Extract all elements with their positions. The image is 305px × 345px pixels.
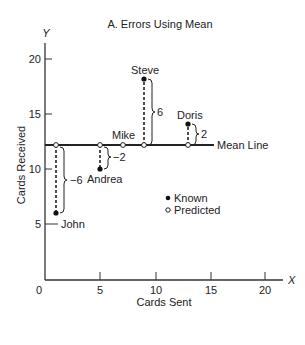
- x-tick-10: 10: [150, 284, 162, 296]
- y-axis-label: Cards Received: [15, 126, 27, 204]
- doris-predicted-point: [186, 143, 191, 148]
- doris-error-label: 2: [201, 128, 207, 140]
- john-label: John: [61, 218, 85, 230]
- mike-label: Mike: [112, 129, 135, 141]
- x-tick-20: 20: [259, 284, 271, 296]
- x-axis-label: Cards Sent: [136, 296, 191, 308]
- legend-known-icon: [166, 196, 171, 201]
- legend-known-label: Known: [174, 192, 208, 204]
- andrea-error-label: −2: [113, 151, 126, 163]
- steve-predicted-point: [142, 143, 147, 148]
- mike-predicted-point: [121, 143, 126, 148]
- x-axis-symbol: X: [287, 274, 296, 286]
- y-tick-20: 20: [29, 53, 41, 65]
- y-ticks: 20 15 10 5: [29, 53, 52, 230]
- x-tick-0: 0: [36, 284, 42, 296]
- chart-canvas: A. Errors Using Mean Y X 20 15 10 5 0 5 …: [0, 0, 305, 345]
- andrea-label: Andrea: [87, 173, 123, 185]
- x-tick-5: 5: [97, 284, 103, 296]
- x-tick-15: 15: [205, 284, 217, 296]
- x-ticks: 0 5 10 15 20: [36, 272, 271, 296]
- y-tick-10: 10: [29, 163, 41, 175]
- steve-known-point: [141, 76, 146, 81]
- legend-predicted-icon: [166, 208, 170, 212]
- john-predicted-point: [54, 143, 59, 148]
- chart-title: A. Errors Using Mean: [107, 18, 212, 30]
- doris-known-point: [185, 121, 190, 126]
- steve-error-label: 6: [157, 106, 163, 118]
- doris-label: Doris: [177, 109, 203, 121]
- steve-label: Steve: [131, 64, 159, 76]
- y-axis-symbol: Y: [42, 27, 50, 39]
- andrea-predicted-point: [98, 143, 103, 148]
- y-tick-15: 15: [29, 108, 41, 120]
- legend-predicted-label: Predicted: [174, 204, 220, 216]
- mean-line-label: Mean Line: [217, 139, 268, 151]
- y-tick-5: 5: [35, 218, 41, 230]
- andrea-known-point: [97, 166, 102, 171]
- john-known-point: [53, 210, 58, 215]
- legend: Known Predicted: [166, 192, 221, 216]
- john-error-label: −6: [70, 174, 83, 186]
